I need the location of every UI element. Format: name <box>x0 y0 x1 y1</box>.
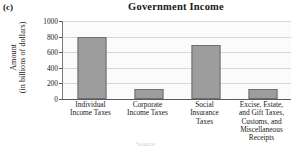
bar[interactable] <box>77 37 106 99</box>
chart-figure: (c) Government Income Amount (in billion… <box>0 0 294 146</box>
y-axis-tick-label: 800 <box>28 32 58 41</box>
y-axis-tick-label: 400 <box>28 63 58 72</box>
plot-area <box>62 21 291 100</box>
cropped-caption-fragment: Source <box>136 140 155 146</box>
y-axis-tick-mark <box>59 68 62 69</box>
bar-slot <box>120 21 177 99</box>
chart-title: Government Income <box>62 1 290 12</box>
x-axis-category-label: SocialInsuranceTaxes <box>176 101 233 126</box>
bar[interactable] <box>134 89 163 99</box>
y-axis-tick-mark <box>59 99 62 100</box>
x-axis-category-labels: IndividualIncome TaxesCorporateIncome Ta… <box>62 101 290 145</box>
x-axis-category-label-line: Income Taxes <box>62 109 119 117</box>
x-axis-category-label: CorporateIncome Taxes <box>119 101 176 118</box>
bar[interactable] <box>191 45 220 99</box>
bar-series <box>63 21 291 99</box>
x-axis-category-label-line: Taxes <box>176 118 233 126</box>
bar-slot <box>63 21 120 99</box>
y-axis-tick-mark <box>59 37 62 38</box>
y-axis-tick-mark <box>59 83 62 84</box>
x-axis-category-label: IndividualIncome Taxes <box>62 101 119 118</box>
y-axis-title-line1: Amount <box>10 21 19 93</box>
y-axis-tick-label: 200 <box>28 79 58 88</box>
panel-letter-label: (c) <box>3 2 13 12</box>
y-axis-tick-label: 600 <box>28 48 58 57</box>
bar-slot <box>177 21 234 99</box>
bar[interactable] <box>248 89 277 99</box>
y-axis-tick-mark <box>59 21 62 22</box>
x-axis-category-label-line: Receipts <box>233 134 290 142</box>
y-axis-tick-label: 1000 <box>28 17 58 26</box>
y-axis-title-line2: (in billions of dollars) <box>19 21 28 93</box>
y-axis-tick-label: 0 <box>28 95 58 104</box>
y-axis-tick-mark <box>59 52 62 53</box>
x-axis-category-label-line: Income Taxes <box>119 109 176 117</box>
bar-slot <box>234 21 291 99</box>
x-axis-category-label: Excise, Estate,and Gift Taxes,Customs, a… <box>233 101 290 142</box>
